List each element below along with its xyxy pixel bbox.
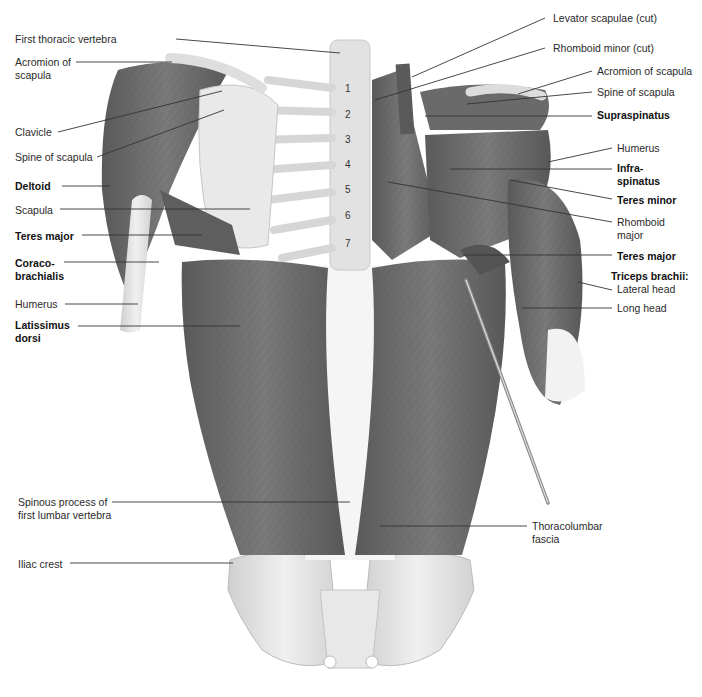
label-acromion-of-scapula-right: Acromion of scapula — [597, 65, 692, 78]
anatomy-illustration: 1234567 — [0, 0, 702, 697]
vertebra-number: 4 — [345, 159, 351, 170]
label-first-thoracic-vertebra: First thoracic vertebra — [15, 33, 117, 46]
diagram-stage: 1234567 First thoracic vertebraAcromion … — [0, 0, 702, 697]
leader-line-triceps-lateral-head — [578, 282, 612, 290]
vertebra-number: 6 — [345, 210, 351, 221]
leader-line-acromion-of-scapula-right — [518, 71, 592, 94]
label-teres-major-left: Teres major — [15, 230, 74, 243]
label-humerus-left: Humerus — [15, 298, 58, 311]
label-teres-major-right: Teres major — [617, 250, 676, 263]
leader-line-first-thoracic-vertebra — [176, 39, 340, 53]
label-clavicle: Clavicle — [15, 126, 52, 139]
latissimus-dorsi-left-shape — [182, 260, 345, 555]
label-spine-of-scapula-left: Spine of scapula — [15, 151, 93, 164]
label-scapula: Scapula — [15, 204, 53, 217]
label-teres-minor: Teres minor — [617, 194, 676, 207]
label-rhomboid-major: Rhomboid major — [617, 216, 665, 242]
label-levator-scapulae-cut: Levator scapulae (cut) — [553, 12, 657, 25]
label-deltoid: Deltoid — [15, 180, 51, 193]
label-humerus-right: Humerus — [617, 142, 660, 155]
label-acromion-of-scapula-left: Acromion of scapula — [15, 56, 71, 82]
label-thoracolumbar-fascia: Thoracolumbar fascia — [532, 520, 603, 546]
label-spine-of-scapula-right: Spine of scapula — [597, 86, 675, 99]
leader-line-humerus-right — [548, 148, 612, 162]
vertebra-number: 5 — [345, 184, 351, 195]
label-supraspinatus: Supraspinatus — [597, 109, 670, 122]
vertebra-number: 3 — [345, 134, 351, 145]
pelvis — [228, 553, 474, 669]
latissimus-dorsi-right-shape — [355, 260, 506, 555]
label-infraspinatus: Infra- spinatus — [617, 162, 660, 188]
label-triceps-lateral-head: Lateral head — [617, 283, 675, 296]
label-rhomboid-minor-cut: Rhomboid minor (cut) — [553, 42, 654, 55]
label-coracobrachialis: Coraco- brachialis — [15, 257, 64, 283]
label-triceps-long-head: Long head — [617, 302, 667, 315]
label-iliac-crest: Iliac crest — [18, 558, 62, 571]
label-latissimus-dorsi: Latissimus dorsi — [15, 319, 70, 345]
label-spinous-process-l1: Spinous process of first lumbar vertebra — [18, 496, 111, 522]
vertebra-number: 2 — [345, 109, 351, 120]
vertebra-number: 1 — [345, 83, 351, 94]
vertebra-number: 7 — [345, 238, 351, 249]
label-triceps-brachii: Triceps brachii: — [611, 270, 689, 283]
